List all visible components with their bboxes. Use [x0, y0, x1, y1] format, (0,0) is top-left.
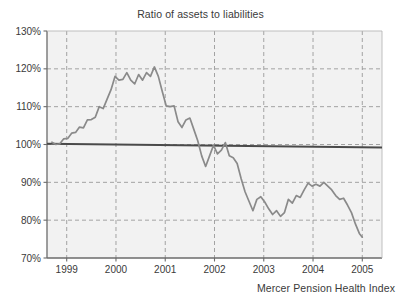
xtick-label: 1999 — [56, 264, 79, 275]
chart-figure: Ratio of assets to liabilities 70%80%90%… — [0, 0, 401, 299]
xtick-label: 2002 — [203, 264, 226, 275]
ytick-label: 70% — [21, 253, 41, 264]
ytick-label: 90% — [21, 177, 41, 188]
ytick-label: 100% — [15, 139, 41, 150]
ytick-label: 130% — [15, 26, 41, 37]
xtick-label: 2001 — [154, 264, 177, 275]
xtick-label: 2000 — [105, 264, 128, 275]
xtick-label: 2005 — [351, 264, 374, 275]
chart-caption: Mercer Pension Health Index — [257, 282, 395, 294]
ytick-label: 120% — [15, 63, 41, 74]
xtick-label: 2003 — [253, 264, 276, 275]
chart-plot-area: 70%80%90%100%110%120%130%199920002001200… — [0, 0, 401, 299]
ytick-label: 80% — [21, 215, 41, 226]
xtick-label: 2004 — [302, 264, 325, 275]
ytick-label: 110% — [16, 101, 41, 112]
